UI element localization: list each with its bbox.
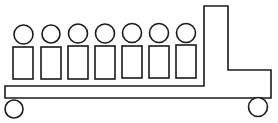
passenger-figures <box>13 24 196 80</box>
figure <box>68 24 88 79</box>
figure-body <box>176 45 196 78</box>
figure <box>41 25 61 79</box>
figure-body <box>68 46 88 79</box>
right-wheel <box>249 98 268 117</box>
figure-body <box>122 46 142 78</box>
figure-head <box>42 25 60 43</box>
figure <box>122 24 142 79</box>
figure <box>95 24 115 79</box>
figure-head <box>150 24 169 43</box>
cart-illustration <box>0 0 278 123</box>
figure <box>13 25 33 79</box>
figure-body <box>95 46 115 79</box>
figure-body <box>13 47 33 79</box>
figure-body <box>41 47 61 79</box>
wheels <box>5 98 268 119</box>
figure <box>176 24 196 79</box>
figure-head <box>69 24 88 43</box>
figure-head <box>177 24 196 43</box>
figure-body <box>149 46 169 78</box>
cart-diagram <box>0 0 278 123</box>
figure-head <box>123 24 142 43</box>
figure <box>149 24 169 79</box>
figure-head <box>96 24 115 43</box>
figure-head <box>14 25 33 44</box>
left-wheel <box>5 100 23 118</box>
